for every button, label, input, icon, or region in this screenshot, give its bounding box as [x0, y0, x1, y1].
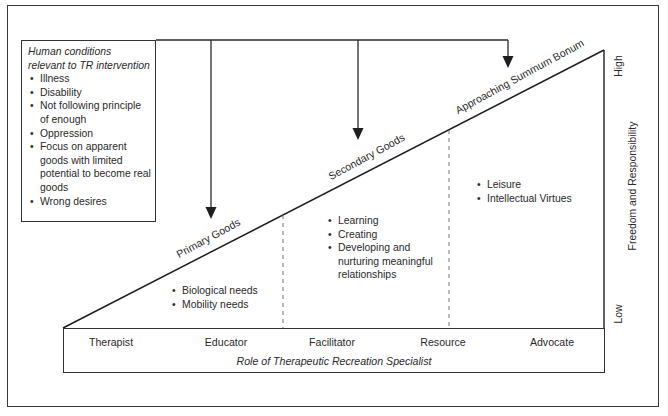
axis-label-freedom-responsibility: Freedom and Responsibility — [627, 122, 638, 251]
role-resource: Resource — [420, 336, 465, 348]
secondary-goods-list: Learning Creating Developing and nurturi… — [326, 214, 438, 282]
axis-low-label: Low — [613, 304, 624, 323]
list-item: Focus on apparent goods with limited pot… — [28, 140, 151, 194]
role-advocate: Advocate — [530, 336, 574, 348]
role-therapist: Therapist — [89, 336, 133, 348]
primary-goods-list: Biological needs Mobility needs — [170, 284, 290, 311]
conditions-title: Human conditions relevant to TR interven… — [28, 45, 151, 72]
list-item: Wrong desires — [28, 195, 151, 209]
axis-high-label: High — [613, 55, 624, 76]
role-educator: Educator — [205, 336, 247, 348]
list-item: Not following principle of enough — [28, 99, 151, 126]
role-facilitator: Facilitator — [309, 336, 355, 348]
list-item: Leisure — [475, 178, 600, 192]
list-item: Developing and nurturing meaningful rela… — [326, 241, 438, 282]
list-item: Creating — [326, 228, 438, 242]
summum-bonum-list: Leisure Intellectual Virtues — [475, 178, 600, 205]
list-item: Disability — [28, 86, 151, 100]
list-item: Biological needs — [170, 284, 290, 298]
roles-caption: Role of Therapeutic Recreation Specialis… — [64, 355, 604, 367]
list-item: Illness — [28, 72, 151, 86]
conditions-list: Illness Disability Not following princip… — [28, 72, 151, 208]
roles-box: Therapist Educator Facilitator Resource … — [63, 328, 605, 373]
list-item: Intellectual Virtues — [475, 192, 600, 206]
list-item: Mobility needs — [170, 298, 290, 312]
list-item: Oppression — [28, 127, 151, 141]
list-item: Learning — [326, 214, 438, 228]
human-conditions-box: Human conditions relevant to TR interven… — [21, 40, 156, 222]
